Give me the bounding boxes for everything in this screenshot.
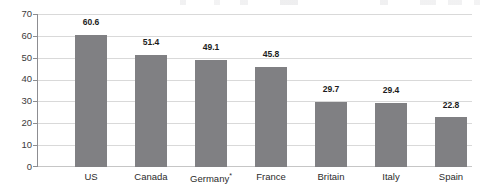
bar-value-label: 29.7 [323, 85, 340, 94]
bar-slot-france: 45.8 [241, 14, 301, 167]
bar-slot-italy: 29.4 [361, 14, 421, 167]
x-tick-label-britain: Britain [318, 172, 345, 182]
x-tick-label-france: France [256, 172, 286, 182]
y-tick-label: 40 [4, 74, 32, 84]
bar-france[interactable] [255, 67, 287, 167]
bar-value-label: 51.4 [143, 38, 160, 47]
y-tick-label: 0 [4, 162, 32, 172]
bar-value-label: 29.4 [383, 86, 400, 95]
bar-slot-spain: 22.8 [421, 14, 481, 167]
bar-slot-germany: 49.1 [181, 14, 241, 167]
bar-value-label: 49.1 [203, 43, 220, 52]
y-tick-label: 30 [4, 96, 32, 106]
clipped-title-remnant [180, 0, 480, 5]
footnote-marker: * [229, 172, 232, 179]
bar-spain[interactable] [435, 117, 467, 167]
bar-us[interactable] [75, 35, 107, 167]
bar-slot-canada: 51.4 [121, 14, 181, 167]
x-tick-label-us: US [84, 172, 97, 182]
x-tick-label-spain: Spain [439, 172, 463, 182]
bar-germany[interactable] [195, 60, 227, 167]
y-tick-label: 70 [4, 9, 32, 19]
x-axis-labels: US Canada Germany* France Britain Italy … [37, 172, 472, 188]
bar-slot-britain: 29.7 [301, 14, 361, 167]
x-tick-label-italy: Italy [382, 172, 399, 182]
x-tick-label-canada: Canada [134, 172, 167, 182]
y-tick-label: 20 [4, 118, 32, 128]
bar-britain[interactable] [315, 102, 347, 167]
bar-value-label: 60.6 [83, 18, 100, 27]
x-tick-label-germany-text: Germany* [190, 173, 232, 184]
bar-slot-us: 60.6 [61, 14, 121, 167]
x-tick-label-germany: Germany* [190, 172, 232, 184]
y-tick-label: 50 [4, 53, 32, 63]
bar-series: 60.6 51.4 49.1 45.8 29.7 29.4 22.8 [37, 14, 472, 167]
y-tick-label: 60 [4, 31, 32, 41]
bar-italy[interactable] [375, 103, 407, 167]
y-tick-label: 10 [4, 140, 32, 150]
bar-canada[interactable] [135, 55, 167, 167]
bar-chart: 70 60 50 40 30 20 10 0 60.6 51.4 [0, 0, 481, 191]
y-axis-labels: 70 60 50 40 30 20 10 0 [0, 14, 32, 167]
bar-value-label: 22.8 [443, 101, 460, 110]
bar-value-label: 45.8 [263, 50, 280, 59]
